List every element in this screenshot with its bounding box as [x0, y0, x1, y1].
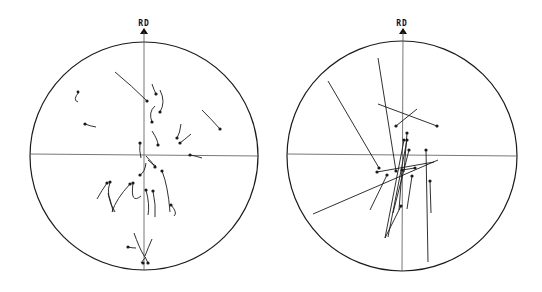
horizontal-axis — [287, 154, 517, 156]
rd-axis-label: RD — [396, 19, 408, 28]
right-plot-canvas — [271, 0, 542, 292]
left-plot-canvas — [0, 0, 271, 292]
horizontal-axis — [30, 154, 259, 156]
right-pole-figure: RD — [271, 0, 542, 292]
left-pole-figure: RD — [0, 0, 271, 292]
trajectory-lines — [313, 58, 438, 262]
arrow-heads — [77, 91, 222, 265]
rd-axis-label: RD — [138, 19, 150, 28]
